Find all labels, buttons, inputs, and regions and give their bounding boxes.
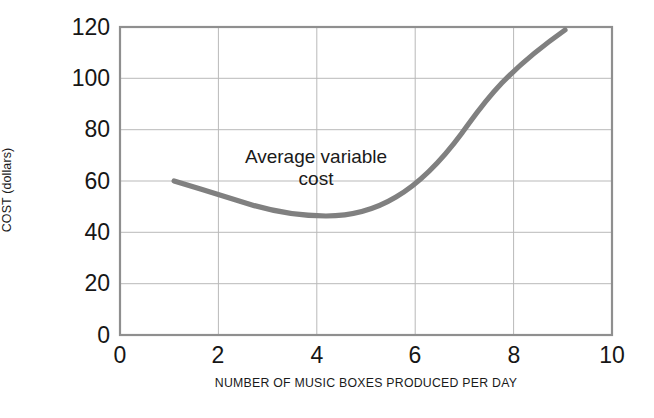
- chart-figure: COST (dollars) 120 100 80 60 40 20 0 0 2…: [0, 0, 654, 418]
- annotation-line-2: cost: [196, 168, 436, 190]
- plot-area: [0, 0, 654, 418]
- average-variable-cost-label: Average variable cost: [196, 146, 436, 191]
- x-axis-title: NUMBER OF MUSIC BOXES PRODUCED PER DAY: [120, 376, 612, 390]
- annotation-line-1: Average variable: [245, 146, 387, 167]
